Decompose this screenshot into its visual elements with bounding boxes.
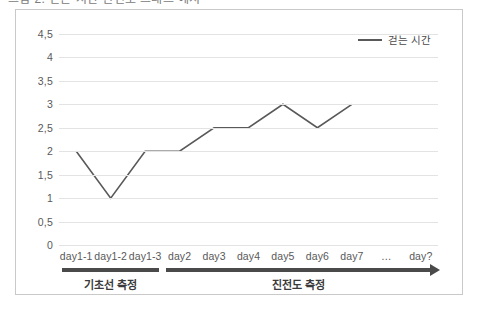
x-axis-tick-label: day3 [202, 250, 225, 262]
x-axis-tick-labels: day1-1day1-2day1-3day2day3day4day5day6da… [59, 250, 438, 266]
gridline [59, 81, 438, 82]
phase-annotations: 기초선 측정 진전도 측정 [59, 268, 455, 296]
plot-area: 4,543,532,521,510,50 [59, 34, 438, 245]
legend-label-walking-time: 걷는 시간 [388, 32, 431, 47]
y-axis-tick-label: 3,5 [38, 75, 53, 87]
x-axis-tick-label: day1-1 [60, 250, 93, 262]
gridline [59, 222, 438, 223]
phase-progress-label: 진전도 측정 [166, 276, 431, 292]
y-axis-tick-label: 4,5 [38, 28, 53, 40]
gridline [59, 151, 438, 152]
chart-frame: 4,543,532,521,510,50 걷는 시간 day1-1day1-2d… [15, 9, 463, 295]
gridline [59, 175, 438, 176]
cut-off-caption-text: 그림 2. 걷는 시간 진전도 그래프 예시 [8, 0, 201, 6]
gridline [59, 128, 438, 129]
cut-off-caption-sliver: 그림 2. 걷는 시간 진전도 그래프 예시 [0, 0, 479, 6]
gridline [59, 198, 438, 199]
x-axis-tick-label: day4 [237, 250, 260, 262]
series-line-chart [59, 34, 438, 245]
x-axis-tick-label: day5 [271, 250, 294, 262]
legend: 걷는 시간 [358, 32, 431, 47]
x-axis-tick-label: day6 [306, 250, 329, 262]
legend-line-swatch-icon [358, 39, 382, 41]
phase-baseline-label: 기초선 측정 [62, 276, 158, 292]
x-axis-tick-label: day1-3 [129, 250, 162, 262]
y-axis-tick-label: 2,5 [38, 122, 53, 134]
gridline [59, 104, 438, 105]
x-axis-tick-label: day1-2 [94, 250, 127, 262]
y-axis-tick-label: 2 [47, 145, 53, 157]
x-axis-tick-label: … [381, 250, 392, 262]
y-axis-tick-label: 0 [47, 239, 53, 251]
y-axis-tick-label: 1 [47, 192, 53, 204]
y-axis-tick-label: 0,5 [38, 216, 53, 228]
y-axis-tick-label: 1,5 [38, 169, 53, 181]
phase-baseline-bar [62, 268, 158, 272]
x-axis-tick-label: day7 [340, 250, 363, 262]
x-axis-tick-label: day2 [168, 250, 191, 262]
y-axis-tick-label: 4 [47, 51, 53, 63]
y-axis-tick-label: 3 [47, 98, 53, 110]
x-axis-tick-label: day? [409, 250, 432, 262]
phase-progress-bar-arrow-icon [166, 268, 431, 272]
gridline [59, 245, 438, 246]
gridline [59, 57, 438, 58]
